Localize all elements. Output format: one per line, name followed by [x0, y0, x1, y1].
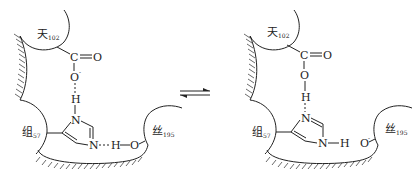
right-n-top: N	[301, 112, 311, 125]
ser195-label: 丝195	[152, 125, 175, 138]
right-h-nh: H	[340, 137, 350, 150]
his57-label-right: 组57	[252, 125, 271, 139]
his57-label: 组57	[22, 125, 41, 139]
left-h-bridge-top: H	[71, 93, 81, 106]
right-wall-hatching	[244, 34, 255, 98]
right-hydroxyl-o: O	[300, 69, 309, 82]
equilibrium-arrows-icon	[180, 88, 210, 98]
left-n-top: N	[71, 114, 81, 127]
left-carboxylate-o: O	[70, 71, 79, 84]
right-carbonyl-o: O	[323, 49, 332, 62]
diagram-canvas: 天102 组57 丝195 C O O - H	[0, 0, 419, 175]
left-h-bridge-ser: H	[111, 139, 121, 152]
ser195-label-right: 丝195	[385, 123, 408, 136]
left-state: 天102 组57 丝195 C O O - H	[14, 10, 182, 169]
asp102-label: 天102	[37, 28, 60, 41]
right-h-top: H	[301, 91, 311, 104]
right-carboxyl-c: C	[300, 49, 308, 62]
right-n-bottom: N	[318, 137, 328, 150]
right-state: 天102 组57 丝195 C O O H N N	[244, 10, 412, 169]
right-ser-charge: -	[368, 134, 370, 141]
right-floor-hatching	[266, 157, 372, 169]
left-carbonyl-o: O	[93, 51, 102, 64]
left-ser-o: O	[130, 139, 139, 152]
left-wall-hatching	[14, 34, 27, 100]
left-carboxylate-charge: -	[79, 68, 81, 75]
left-carboxyl-c: C	[70, 51, 78, 64]
left-n-bottom: N	[89, 139, 99, 152]
asp102-label-right: 天102	[267, 26, 290, 39]
